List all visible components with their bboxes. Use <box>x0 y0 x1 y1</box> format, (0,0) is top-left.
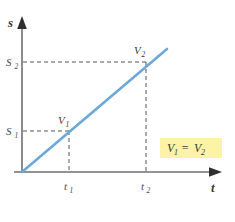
x-axis-label: t <box>211 180 215 195</box>
x-tick-t2-subscript: 2 <box>147 186 151 195</box>
y-tick-label-s2: S 2 <box>6 56 19 71</box>
y-tick-s1-subscript: 1 <box>15 131 19 140</box>
graph-canvas: S 2 S 1 t 1 t 2 s t V 1 V 2 V <box>0 0 235 222</box>
equation-lhs-subscript: 1 <box>174 148 178 157</box>
x-axis-arrow-icon <box>209 167 222 177</box>
y-tick-label-s1: S 1 <box>6 125 18 140</box>
x-tick-t1-subscript: 1 <box>70 186 74 195</box>
y-tick-s1-base: S <box>6 125 12 137</box>
distance-time-graph-figure: S 2 S 1 t 1 t 2 s t V 1 V 2 V <box>0 0 235 222</box>
x-tick-label-t2: t 2 <box>141 180 151 195</box>
point-v2-subscript: 2 <box>142 50 146 59</box>
x-tick-t1-base: t <box>64 180 68 192</box>
point-v1-subscript: 1 <box>66 120 70 129</box>
point-label-v1: V 1 <box>58 114 69 129</box>
equation-annotation: V 1 = V 2 <box>160 138 222 158</box>
x-tick-label-t1: t 1 <box>64 180 73 195</box>
data-line-s-of-t <box>22 49 167 172</box>
y-tick-s2-base: S <box>6 56 12 68</box>
x-tick-t2-base: t <box>141 180 145 192</box>
y-tick-s2-subscript: 2 <box>15 62 19 71</box>
y-axis-arrow-icon <box>17 16 27 29</box>
point-label-v2: V 2 <box>134 44 146 59</box>
equation-rhs-subscript: 2 <box>201 148 205 157</box>
y-axis-label: s <box>7 15 13 30</box>
equation-operator: = <box>181 141 189 155</box>
